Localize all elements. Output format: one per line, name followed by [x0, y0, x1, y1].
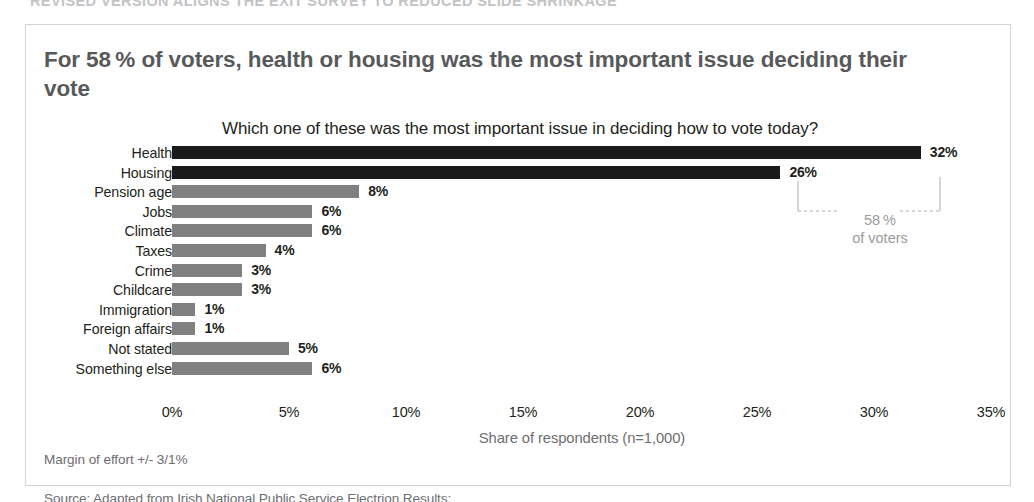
x-axis-tick-label: 15%	[509, 404, 537, 420]
bar	[172, 362, 312, 375]
chart-footnotes: Margin of effort +/- 3/1% Source: Adapte…	[44, 430, 488, 502]
x-axis-tick-label: 5%	[279, 404, 300, 420]
bar-category-label: Childcare	[0, 282, 172, 298]
bar-value-label: 5%	[298, 340, 318, 356]
x-axis-tick-label: 30%	[860, 404, 888, 420]
x-axis-tick-label: 0%	[162, 404, 183, 420]
bar-row: Housing26%	[26, 163, 1012, 183]
bar-row: Taxes4%	[26, 241, 1012, 261]
bar-category-label: Foreign affairs	[0, 321, 172, 337]
bar	[172, 264, 242, 277]
chart-card: For 58 % of voters, health or housing wa…	[25, 24, 1011, 486]
footnote-source: Source: Adapted from Irish National Publ…	[44, 489, 488, 502]
bar	[172, 283, 242, 296]
bar-row: Pension age8%	[26, 182, 1012, 202]
footnote-margin: Margin of effort +/- 3/1%	[44, 450, 488, 470]
bar	[172, 244, 266, 257]
x-axis-tick-label: 10%	[392, 404, 420, 420]
bar-category-label: Immigration	[0, 302, 172, 318]
bar-value-label: 3%	[251, 262, 271, 278]
bar-value-label: 8%	[368, 183, 388, 199]
bar-row: Health32%	[26, 143, 1012, 163]
bar-row: Immigration1%	[26, 300, 1012, 320]
cropped-headline-banner: REVISED VERSION ALIGNS THE EXIT SURVEY T…	[30, 0, 790, 7]
bar-value-label: 4%	[275, 242, 295, 258]
bar-category-label: Housing	[0, 165, 172, 181]
bar-value-label: 6%	[321, 222, 341, 238]
bar-category-label: Not stated	[0, 341, 172, 357]
bar	[172, 342, 289, 355]
x-axis-tick-label: 20%	[626, 404, 654, 420]
bar	[172, 185, 359, 198]
bar-row: Not stated5%	[26, 339, 1012, 359]
bar-category-label: Health	[0, 145, 172, 161]
bar-category-label: Climate	[0, 223, 172, 239]
bar-value-label: 6%	[321, 360, 341, 376]
bar-category-label: Something else	[0, 361, 172, 377]
bar-row: Jobs6%	[26, 202, 1012, 222]
bar-category-label: Taxes	[0, 243, 172, 259]
bar	[172, 224, 312, 237]
bar-category-label: Pension age	[0, 184, 172, 200]
bar	[172, 166, 780, 179]
bar	[172, 303, 195, 316]
x-axis-tick-label: 25%	[743, 404, 771, 420]
bar-row: Something else6%	[26, 359, 1012, 379]
bar-value-label: 6%	[321, 203, 341, 219]
bar-row: Childcare3%	[26, 280, 1012, 300]
bar	[172, 146, 921, 159]
bar-row: Climate6%	[26, 221, 1012, 241]
bar-value-label: 32%	[930, 144, 957, 160]
bar-value-label: 1%	[204, 301, 224, 317]
bar-category-label: Jobs	[0, 204, 172, 220]
bar-value-label: 3%	[251, 281, 271, 297]
bar	[172, 322, 195, 335]
bar	[172, 205, 312, 218]
bar-chart-plot-area: Health32%Housing26%Pension age8%Jobs6%Cl…	[26, 25, 1012, 487]
bar-row: Crime3%	[26, 261, 1012, 281]
bar-category-label: Crime	[0, 263, 172, 279]
bar-value-label: 1%	[204, 320, 224, 336]
bar-row: Foreign affairs1%	[26, 319, 1012, 339]
x-axis-tick-label: 35%	[977, 404, 1005, 420]
bar-value-label: 26%	[789, 164, 816, 180]
